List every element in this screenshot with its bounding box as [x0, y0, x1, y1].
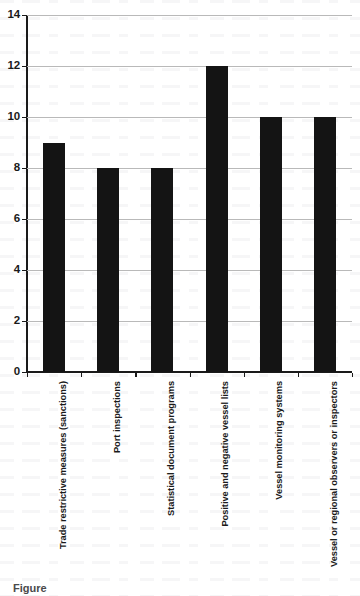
y-tick-label-8: 8 [0, 162, 20, 174]
x-axis-label: Positive and negative vessel lists [221, 381, 230, 527]
x-tick-mark [81, 373, 82, 377]
x-tick-mark [27, 373, 28, 377]
y-tick-mark-2 [22, 321, 27, 322]
x-tick-mark [190, 373, 191, 377]
bar [151, 168, 173, 372]
gridline-8 [27, 168, 352, 169]
x-axis-label: Vessel monitoring systems [275, 381, 284, 500]
bar [260, 117, 282, 372]
bar [206, 66, 228, 372]
gridline-4 [27, 270, 352, 271]
gridline-14 [27, 15, 352, 16]
y-tick-mark-14 [22, 15, 27, 16]
gridline-10 [27, 117, 352, 118]
y-tick-mark-6 [22, 219, 27, 220]
y-tick-label-12: 12 [0, 60, 20, 72]
x-axis-label: Vessel or regional observers or inspecto… [330, 381, 339, 567]
x-axis-label: Port inspections [113, 381, 122, 453]
y-tick-label-10: 10 [0, 111, 20, 123]
gridline-12 [27, 66, 352, 67]
x-tick-mark [244, 373, 245, 377]
figure-caption-text: Figure [13, 583, 213, 594]
x-tick-mark [352, 373, 353, 377]
gridline-6 [27, 219, 352, 220]
y-tick-mark-8 [22, 168, 27, 169]
x-axis-label: Trade restrictive measures (sanctions) [59, 381, 68, 549]
y-tick-label-2: 2 [0, 315, 20, 327]
bar [97, 168, 119, 372]
x-tick-mark [298, 373, 299, 377]
y-tick-mark-10 [22, 117, 27, 118]
bar [43, 143, 65, 373]
y-tick-label-0: 0 [0, 366, 20, 378]
y-tick-label-14: 14 [0, 9, 20, 21]
figure-caption-clipped: Figure [13, 583, 213, 596]
y-tick-label-6: 6 [0, 213, 20, 225]
bar [314, 117, 336, 372]
y-tick-mark-12 [22, 66, 27, 67]
x-tick-mark [135, 373, 136, 377]
x-axis-label: Statistical document programs [167, 381, 176, 516]
y-tick-label-4: 4 [0, 264, 20, 276]
bar-chart-figure: 02468101214 Trade restrictive measures (… [0, 0, 360, 596]
gridline-2 [27, 321, 352, 322]
y-tick-mark-4 [22, 270, 27, 271]
y-axis-line [26, 15, 28, 373]
